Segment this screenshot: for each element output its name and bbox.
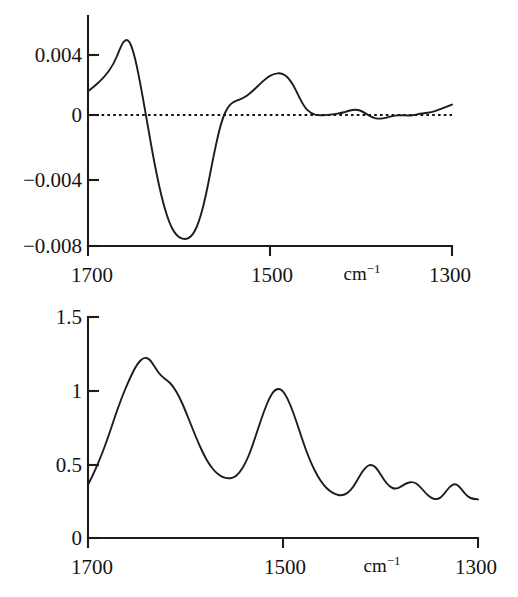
- bottom-y-label-1: 1.5: [56, 305, 82, 329]
- bottom-unit-exponent: −1: [387, 553, 401, 568]
- bottom-panel-svg: 1.5 1 0.5 0 1700 1500 1300 cm−1: [0, 297, 518, 597]
- top-x-label-left: 1700: [71, 263, 113, 287]
- bottom-x-label-mid: 1500: [264, 555, 306, 579]
- top-y-label-2: 0: [72, 103, 83, 127]
- top-x-label-right: 1300: [429, 263, 471, 287]
- bottom-x-axis-unit-label: cm−1: [363, 553, 400, 577]
- top-x-label-mid: 1500: [251, 263, 293, 287]
- difference-spectrum-curve: [88, 40, 452, 239]
- absorbance-spectrum-curve: [88, 358, 478, 499]
- top-y-label-1: 0.004: [35, 43, 83, 67]
- top-spectrum-panel: 0.004 0 −0.004 −0.008 1700 1500 1300 cm−…: [0, 0, 518, 300]
- bottom-y-label-3: 0.5: [56, 453, 82, 477]
- bottom-x-label-right: 1300: [455, 555, 497, 579]
- bottom-x-label-left: 1700: [71, 555, 113, 579]
- top-panel-svg: 0.004 0 −0.004 −0.008 1700 1500 1300 cm−…: [0, 0, 518, 300]
- top-y-label-3: −0.004: [23, 168, 83, 192]
- figure-page: 0.004 0 −0.004 −0.008 1700 1500 1300 cm−…: [0, 0, 518, 597]
- top-unit-exponent: −1: [367, 261, 381, 276]
- top-unit-base: cm: [343, 263, 366, 284]
- bottom-y-label-2: 1: [72, 379, 83, 403]
- top-x-axis-unit-label: cm−1: [343, 261, 380, 285]
- top-y-label-4: −0.008: [23, 234, 82, 258]
- bottom-y-label-4: 0: [72, 526, 83, 550]
- bottom-unit-base: cm: [363, 555, 386, 576]
- bottom-spectrum-panel: 1.5 1 0.5 0 1700 1500 1300 cm−1: [0, 297, 518, 597]
